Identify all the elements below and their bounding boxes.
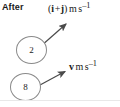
- velocity-label-mass-2: (i+j)ms–1: [48, 2, 90, 14]
- unit-metre: m: [76, 61, 84, 72]
- unit-exponent: –1: [89, 59, 97, 68]
- bottom-rule: [0, 100, 120, 101]
- unit-exponent: –1: [82, 1, 90, 10]
- plus-operator: +: [54, 3, 61, 14]
- mass-label-8: 8: [23, 83, 28, 92]
- unit-metre: m: [69, 3, 77, 14]
- mass-circle-2: 2: [16, 36, 47, 64]
- velocity-arrow-mass-8: [40, 72, 65, 86]
- close-paren: ): [64, 3, 67, 14]
- collision-after-diagram: After 2 8 (i+j)ms–1 vms–1: [0, 0, 120, 107]
- velocity-label-mass-8: vms–1: [69, 60, 97, 72]
- mass-label-2: 2: [29, 46, 34, 55]
- mass-circle-8: 8: [10, 73, 41, 101]
- velocity-symbol-v: v: [69, 61, 74, 72]
